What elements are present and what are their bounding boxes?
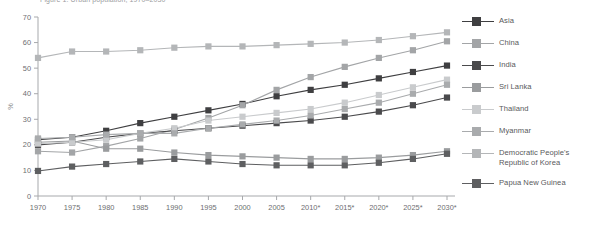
series-marker [308,162,314,168]
series-marker [342,114,348,120]
y-axis-title: % [6,103,15,110]
legend-item: India [462,58,603,80]
legend-item-label: India [494,58,516,70]
urban-population-chart: Figure 1. Urban population, 1970–2030 01… [0,0,603,229]
series-marker [205,152,211,158]
series-marker [444,82,450,88]
series-marker [137,158,143,164]
series-marker [308,106,314,112]
legend-item: Democratic People's Republic of Korea [462,146,603,176]
series-marker [273,93,279,99]
series-marker [239,102,245,108]
series-marker [239,43,245,49]
series-marker [171,114,177,120]
legend-swatch-icon [462,59,494,73]
series-marker [273,110,279,116]
x-axis-tick-label: 1995 [200,203,216,212]
series-marker [239,121,245,127]
series-marker [342,64,348,70]
series-marker [171,149,177,155]
y-axis-tick-label: 60 [23,38,31,47]
series-marker [342,156,348,162]
legend-item: China [462,36,603,58]
series-marker [69,149,75,155]
series-marker [137,47,143,53]
legend-swatch-icon [462,81,494,95]
series-marker [376,55,382,61]
legend-item-label: China [494,36,519,48]
y-axis-tick-label: 10 [23,166,31,175]
legend-item: Asia [462,14,603,36]
series-marker [444,62,450,68]
chart-legend: AsiaChinaIndiaSri LankaThailandMyanmarDe… [462,14,603,214]
x-axis-tick-label: 2000 [234,203,250,212]
series-marker [308,112,314,118]
series-marker [342,162,348,168]
series-marker [342,100,348,106]
series-marker [103,161,109,167]
series-marker [35,135,41,141]
series-marker [137,120,143,126]
series-marker [308,87,314,93]
series-marker [410,33,416,39]
legend-swatch-icon [462,177,494,191]
series-marker [171,45,177,51]
series-marker [205,125,211,131]
y-axis-tick-label: 40 [23,89,31,98]
series-marker [444,29,450,35]
series-marker [205,43,211,49]
x-axis-tick-label: 2020* [369,203,388,212]
legend-item-label: Asia [494,14,514,26]
series-marker [205,107,211,113]
series-marker [410,102,416,108]
series-marker [376,100,382,106]
series-marker [35,55,41,61]
series-marker [376,37,382,43]
legend-item: Sri Lanka [462,80,603,102]
legend-swatch-icon [462,147,494,161]
series-marker [205,117,211,123]
legend-item-label: Papua New Guinea [494,176,566,188]
y-axis-tick-label: 30 [23,115,31,124]
series-marker [342,39,348,45]
legend-swatch-icon [462,37,494,51]
x-axis-tick-label: 2030* [437,203,456,212]
series-marker [35,148,41,154]
series-marker [273,42,279,48]
x-axis-tick-label: 2010* [301,203,320,212]
series-marker [205,158,211,164]
series-line [38,41,447,152]
series-marker [410,84,416,90]
x-axis-tick-label: 1985 [132,203,148,212]
x-axis-tick-label: 1970 [30,203,46,212]
series-marker [273,117,279,123]
y-axis-tick-label: 70 [23,13,31,22]
series-marker [137,146,143,152]
series-marker [410,69,416,75]
legend-swatch-icon [462,125,494,139]
series-marker [410,156,416,162]
series-marker [239,161,245,167]
series-marker [444,94,450,100]
series-marker [239,153,245,159]
series-marker [103,48,109,54]
x-axis-tick-label: 1990 [166,203,182,212]
legend-item-label: Thailand [494,102,529,114]
series-marker [239,114,245,120]
series-marker [444,151,450,157]
series-line [38,85,447,139]
legend-swatch-icon [462,15,494,29]
series-marker [69,134,75,140]
series-marker [273,155,279,161]
series-marker [410,91,416,97]
x-axis-tick-label: 1980 [98,203,114,212]
series-marker [410,47,416,53]
series-marker [69,48,75,54]
series-marker [376,109,382,115]
series-marker [342,106,348,112]
legend-item-label: Democratic People's Republic of Korea [494,146,569,167]
y-axis-tick-label: 50 [23,64,31,73]
series-marker [103,146,109,152]
series-marker [69,163,75,169]
series-marker [273,87,279,93]
